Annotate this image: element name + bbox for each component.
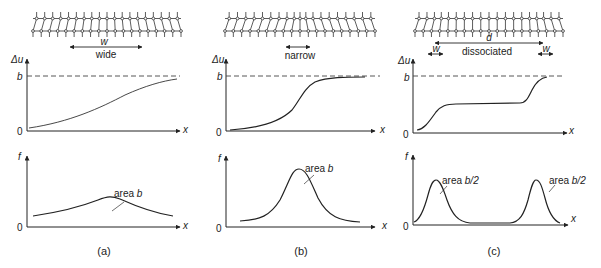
svg-text:0: 0 [403, 221, 409, 232]
svg-text:0: 0 [216, 127, 222, 138]
displacement-curve-c [417, 77, 547, 130]
panel-b: narrow Δu b 0 x area b f 0 x (b) [211, 12, 388, 257]
svg-text:Δu: Δu [211, 54, 225, 65]
svg-text:f: f [18, 151, 22, 162]
width-label-dissociated: dissociated [462, 46, 512, 57]
panel-a: w wide Δu b 0 x area b f 0 x (a) [10, 12, 189, 257]
svg-text:w: w [542, 43, 550, 54]
width-symbol-w: w [100, 36, 108, 47]
svg-text:area b: area b [114, 188, 143, 199]
svg-text:b: b [217, 71, 223, 82]
svg-text:Δu: Δu [10, 54, 24, 65]
svg-text:f: f [218, 153, 222, 164]
displacement-plot-c: Δu b 0 x [397, 55, 575, 140]
svg-text:x: x [568, 125, 575, 136]
svg-text:x: x [381, 220, 388, 231]
panel-c: d dissociated w w Δu b 0 x area b/2 area… [397, 12, 586, 257]
displacement-curve-b [230, 77, 365, 130]
dislocation-width-diagram: w wide Δu b 0 x area b f 0 x (a) [0, 0, 601, 268]
density-curve-a [33, 197, 173, 216]
atomic-lattice-wide [32, 12, 183, 37]
svg-text:x: x [379, 124, 386, 135]
density-plot-a: area b f 0 x [17, 151, 189, 233]
svg-text:area b: area b [305, 163, 334, 174]
width-label-narrow: narrow [285, 50, 316, 61]
displacement-plot-b: Δu b 0 x [211, 54, 386, 138]
svg-text:0: 0 [403, 129, 409, 140]
density-curve-b [240, 169, 360, 222]
svg-text:f: f [405, 151, 409, 162]
displacement-plot-a: Δu b 0 x [10, 54, 189, 137]
density-plot-c: area b/2 area b/2 f 0 x [403, 151, 586, 232]
svg-text:area b/2: area b/2 [442, 175, 479, 186]
svg-text:0: 0 [216, 223, 222, 234]
density-curve-c [414, 180, 560, 223]
svg-text:x: x [182, 220, 189, 231]
caption-c: (c) [488, 245, 501, 257]
density-plot-b: area b f 0 x [216, 153, 388, 234]
svg-text:x: x [570, 213, 577, 224]
svg-text:b: b [404, 72, 410, 83]
svg-text:b: b [17, 71, 23, 82]
caption-b: (b) [294, 245, 307, 257]
svg-text:w: w [432, 43, 440, 54]
caption-a: (a) [97, 245, 110, 257]
svg-text:x: x [182, 124, 189, 135]
width-label-wide: wide [95, 49, 117, 60]
svg-text:Δu: Δu [397, 55, 411, 66]
separation-symbol-d: d [486, 32, 492, 43]
displacement-curve-a [29, 79, 177, 128]
svg-text:0: 0 [17, 222, 23, 233]
svg-text:0: 0 [17, 126, 23, 137]
svg-text:area b/2: area b/2 [549, 175, 586, 186]
atomic-lattice-narrow [224, 12, 377, 37]
